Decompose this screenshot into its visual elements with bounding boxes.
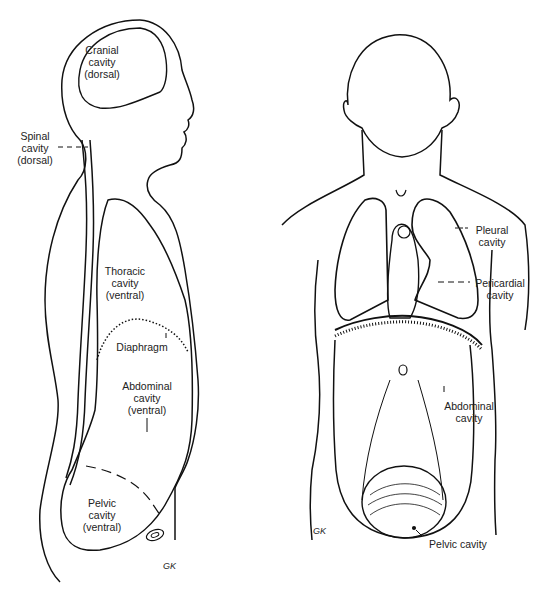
label-line: cavity	[472, 236, 512, 248]
label-line: cavity	[118, 392, 176, 404]
label-line: Abdominal	[118, 380, 176, 392]
label-spinal-cavity: Spinal cavity (dorsal)	[14, 130, 56, 166]
label-line: Thoracic	[100, 265, 150, 277]
label-pleural-cavity: Pleural cavity	[472, 224, 512, 248]
label-line: cavity	[80, 509, 124, 521]
label-line: cavity	[100, 277, 150, 289]
label-pericardial-cavity: Pericardial cavity	[472, 277, 528, 301]
label-line: Diaphragm	[114, 341, 170, 353]
label-line: Spinal	[14, 130, 56, 142]
label-pelvic-cavity-front: Pelvic cavity	[423, 538, 493, 550]
label-line: Pericardial	[472, 277, 528, 289]
label-line: cavity	[82, 56, 122, 68]
label-line: (ventral)	[100, 289, 150, 301]
label-abdominal-cavity-front: Abdominal cavity	[442, 400, 496, 424]
label-line: Pleural	[472, 224, 512, 236]
label-diaphragm: Diaphragm	[114, 341, 170, 353]
label-cranial-cavity: Cranial cavity (dorsal)	[82, 44, 122, 80]
artist-signature-left: GK	[163, 560, 176, 572]
label-line: (dorsal)	[82, 68, 122, 80]
label-thoracic-cavity: Thoracic cavity (ventral)	[100, 265, 150, 301]
label-line: (dorsal)	[14, 154, 56, 166]
artist-signature-right: GK	[313, 525, 326, 537]
signature-text: GK	[313, 525, 326, 537]
signature-text: GK	[163, 560, 176, 572]
label-line: cavity	[14, 142, 56, 154]
label-line: Pelvic cavity	[423, 538, 493, 550]
label-line: Abdominal	[442, 400, 496, 412]
label-line: (ventral)	[118, 404, 176, 416]
label-pelvic-cavity-side: Pelvic cavity (ventral)	[80, 497, 124, 533]
label-line: Pelvic	[80, 497, 124, 509]
label-line: Cranial	[82, 44, 122, 56]
label-line: cavity	[472, 289, 528, 301]
label-abdominal-cavity-side: Abdominal cavity (ventral)	[118, 380, 176, 416]
label-line: cavity	[442, 412, 496, 424]
label-line: (ventral)	[80, 521, 124, 533]
